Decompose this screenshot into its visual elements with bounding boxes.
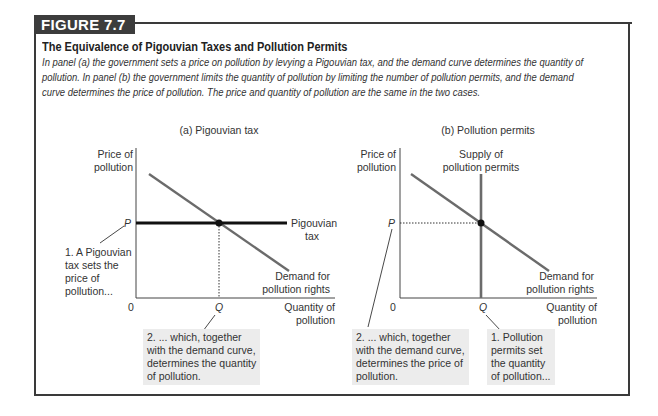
panel-b-q-label: Q: [479, 301, 487, 313]
annotation-line: 2. ... which, together: [147, 331, 256, 344]
annotation-line: determines the price of: [356, 357, 465, 370]
panel-a-demand-label-1: Demand for: [275, 270, 330, 282]
panel-a-annotation-2: 2. ... which, together with the demand c…: [143, 329, 260, 385]
panel-b-xlabel-2: pollution: [558, 314, 597, 326]
panel-a-demand-label-2: pollution rights: [262, 283, 330, 295]
annotation-line: 2. ... which, together: [356, 331, 465, 344]
panel-b-leader-2: [368, 229, 392, 327]
annotation-line: pollution.: [356, 370, 465, 383]
panel-a-equilibrium-dot: [216, 220, 223, 227]
annotation-line: of pollution...: [491, 370, 551, 383]
panel-b-chart: (b) Pollution permits Price of pollution…: [357, 124, 597, 331]
panel-b-ylabel-1: Price of: [360, 148, 396, 160]
panel-b-annotation-2: 2. ... which, together with the demand c…: [352, 329, 469, 385]
annotation-line: pollution...: [65, 285, 132, 298]
charts-canvas: (a) Pigouvian tax Price of pollution P P…: [0, 0, 658, 416]
panel-b-p-label: P: [388, 217, 395, 229]
panel-b-supply-label-2: pollution permits: [443, 161, 519, 173]
panel-b-origin: 0: [390, 301, 396, 313]
panel-a-title: (a) Pigouvian tax: [180, 124, 260, 136]
panel-b-annotation-1: 1. Pollution permits set the quantity of…: [487, 329, 555, 385]
annotation-line: with the demand curve,: [147, 344, 256, 357]
panel-a-xlabel-1: Quantity of: [284, 301, 335, 313]
panel-a-xlabel-2: pollution: [296, 314, 335, 326]
annotation-line: 1. A Pigouvian: [65, 246, 132, 259]
panel-b-xlabel-1: Quantity of: [546, 301, 597, 313]
panel-b-title: (b) Pollution permits: [441, 124, 534, 136]
panel-a-tax-label-2: tax: [305, 230, 320, 242]
panel-b-supply-label-1: Supply of: [459, 148, 503, 160]
panel-a-tax-label-1: Pigouvian: [291, 217, 337, 229]
annotation-line: of pollution.: [147, 370, 256, 383]
annotation-line: price of: [65, 272, 132, 285]
panel-b-demand-label-1: Demand for: [539, 270, 594, 282]
panel-a-origin: 0: [128, 301, 134, 313]
panel-a-leader-1: [100, 226, 124, 243]
annotation-line: the quantity: [491, 357, 551, 370]
annotation-line: tax sets the: [65, 259, 132, 272]
annotation-line: 1. Pollution: [491, 331, 551, 344]
panel-b-ylabel-2: pollution: [357, 161, 396, 173]
panel-b-demand-label-2: pollution rights: [526, 283, 594, 295]
panel-a-ylabel-2: pollution: [94, 161, 133, 173]
panel-a-annotation-1: 1. A Pigouvian tax sets the price of pol…: [61, 244, 136, 300]
annotation-line: determines the quantity: [147, 357, 256, 370]
panel-a-q-label: Q: [215, 301, 223, 313]
panel-a-ylabel-1: Price of: [97, 148, 133, 160]
panel-b-equilibrium-dot: [478, 220, 485, 227]
panel-a-p-label: P: [124, 217, 131, 229]
annotation-line: with the demand curve,: [356, 344, 465, 357]
annotation-line: permits set: [491, 344, 551, 357]
